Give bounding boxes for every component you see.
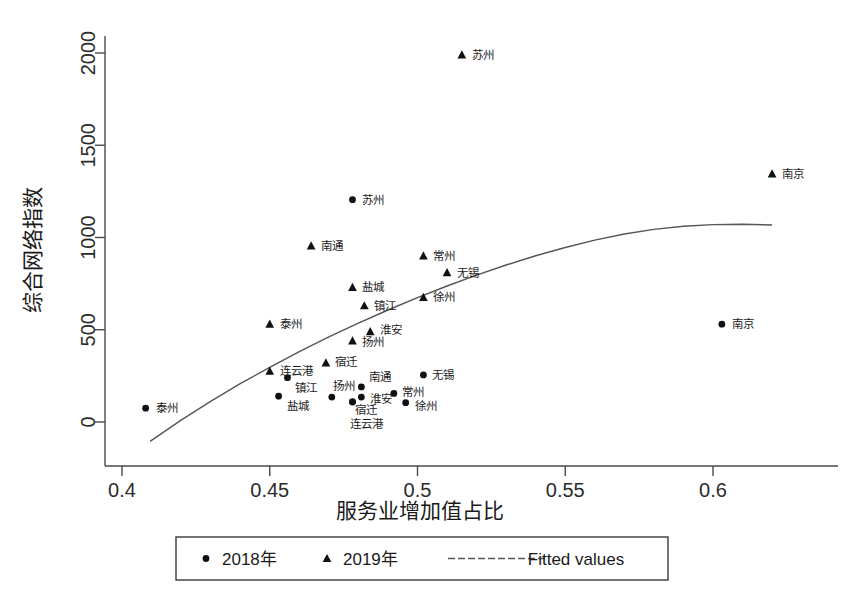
data-point[interactable]: 南京: [718, 317, 753, 331]
x-tick-label: 0.45: [250, 479, 289, 501]
data-point[interactable]: 南京: [768, 167, 804, 181]
x-tick-label: 0.6: [699, 479, 727, 501]
legend-marker-triangle-icon: [323, 554, 332, 562]
data-point-marker-triangle[interactable]: [360, 301, 369, 309]
legend-label: 2019年: [343, 550, 398, 569]
data-point[interactable]: 泰州: [265, 317, 301, 331]
data-point-label: 盐城: [287, 399, 310, 413]
data-point-label: 南通: [321, 239, 344, 253]
data-point-marker-triangle[interactable]: [348, 283, 357, 291]
data-point[interactable]: 南通: [358, 370, 392, 390]
data-point-marker-triangle[interactable]: [322, 358, 331, 366]
chart-canvas: 泰州苏州南京镇江盐城扬州南通淮安常州徐州宿迁连云港无锡苏州南京南通常州无锡盐城徐…: [0, 0, 843, 610]
data-point-marker-circle[interactable]: [328, 394, 335, 401]
data-point-marker-triangle[interactable]: [419, 251, 428, 259]
y-axis-title: 综合网络指数: [21, 187, 44, 313]
data-point-label: 徐州: [415, 399, 437, 413]
data-point-marker-triangle[interactable]: [307, 241, 316, 249]
data-point[interactable]: 常州: [419, 249, 455, 263]
x-tick-label: 0.4: [108, 479, 136, 501]
data-point-label: 镇江: [295, 381, 318, 395]
plot-area: 泰州苏州南京镇江盐城扬州南通淮安常州徐州宿迁连云港无锡苏州南京南通常州无锡盐城徐…: [142, 48, 804, 442]
data-point-label: 无锡: [457, 266, 479, 280]
data-point-marker-triangle[interactable]: [265, 320, 274, 328]
data-point-label: 常州: [402, 385, 424, 399]
y-tick-label: 500: [77, 313, 99, 346]
legend-label: Fitted values: [528, 550, 624, 569]
data-point-marker-triangle[interactable]: [265, 367, 274, 375]
data-point-label: 扬州: [333, 379, 355, 393]
data-point-label: 盐城: [362, 280, 385, 294]
data-point[interactable]: 镇江: [360, 299, 397, 313]
data-point-marker-triangle[interactable]: [457, 50, 466, 58]
data-point-marker-circle[interactable]: [142, 405, 149, 412]
data-point-label: 苏州: [472, 48, 494, 62]
x-tick-label: 0.55: [546, 479, 585, 501]
y-tick-label: 1000: [77, 215, 99, 260]
data-point-label: 扬州: [362, 335, 384, 349]
data-point-label: 镇江: [374, 299, 397, 313]
data-point-marker-triangle[interactable]: [348, 336, 357, 344]
data-point-label: 南京: [782, 167, 804, 181]
data-point[interactable]: 扬州: [328, 379, 354, 400]
data-point-label: 宿迁: [355, 403, 378, 417]
y-tick-label: 0: [77, 416, 99, 427]
data-point[interactable]: 宿迁: [322, 355, 358, 369]
chart-legend[interactable]: 2018年2019年Fitted values: [176, 537, 668, 580]
data-point[interactable]: 无锡: [443, 266, 479, 280]
data-point-marker-circle[interactable]: [358, 384, 365, 391]
data-point[interactable]: 盐城: [348, 280, 385, 294]
data-point-label: 宿迁: [335, 355, 358, 369]
data-point[interactable]: 南通: [307, 239, 344, 253]
data-point-label: 苏州: [362, 193, 384, 207]
data-point-label: 泰州: [156, 401, 178, 415]
data-point-label: 无锡: [432, 368, 454, 382]
data-point-marker-circle[interactable]: [718, 321, 725, 328]
y-tick-label: 1500: [77, 123, 99, 168]
data-point[interactable]: 盐城: [275, 393, 309, 413]
data-point[interactable]: 常州: [390, 385, 423, 399]
data-point-marker-triangle[interactable]: [443, 268, 452, 276]
legend-item-3[interactable]: Fitted values: [448, 550, 624, 569]
data-point[interactable]: 苏州: [457, 48, 493, 62]
data-point-label: 连云港: [280, 364, 314, 378]
x-tick-label: 0.5: [404, 479, 432, 501]
y-tick-label: 2000: [77, 31, 99, 76]
data-point-marker-circle[interactable]: [390, 390, 397, 397]
data-point[interactable]: 徐州: [402, 399, 436, 413]
data-point-marker-circle[interactable]: [420, 372, 427, 379]
fitted-values-line: [150, 224, 772, 441]
data-point-label: 常州: [433, 249, 455, 263]
data-point-label: 泰州: [280, 317, 302, 331]
data-point[interactable]: 苏州: [349, 193, 384, 207]
data-point[interactable]: 泰州: [142, 401, 177, 415]
data-point-label: 徐州: [433, 290, 455, 304]
legend-item-1[interactable]: 2018年: [203, 550, 277, 569]
data-point-marker-triangle[interactable]: [768, 169, 777, 177]
scatter-plot-figure: 泰州苏州南京镇江盐城扬州南通淮安常州徐州宿迁连云港无锡苏州南京南通常州无锡盐城徐…: [0, 0, 843, 610]
x-axis-title: 服务业增加值占比: [336, 499, 504, 522]
data-point[interactable]: 扬州: [348, 335, 384, 349]
data-point-marker-circle[interactable]: [349, 196, 356, 203]
legend-label: 2018年: [222, 550, 277, 569]
data-point-marker-circle[interactable]: [349, 399, 356, 406]
data-point-label: 连云港: [350, 417, 384, 431]
data-point-marker-circle[interactable]: [358, 394, 365, 401]
data-point-marker-circle[interactable]: [275, 393, 282, 400]
data-point-label: 南通: [369, 370, 392, 384]
data-point-label: 南京: [732, 317, 754, 331]
data-point[interactable]: 无锡: [420, 368, 454, 382]
data-point-marker-circle[interactable]: [402, 399, 409, 406]
legend-item-2[interactable]: 2019年: [323, 550, 398, 569]
data-point[interactable]: 徐州: [419, 290, 455, 304]
legend-marker-circle-icon: [203, 555, 210, 562]
